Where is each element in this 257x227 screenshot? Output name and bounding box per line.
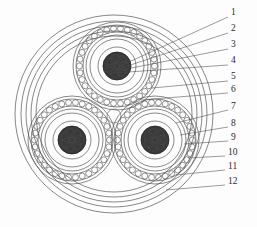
screen-wire bbox=[82, 83, 88, 89]
screen-wire bbox=[59, 101, 65, 107]
screen-wire bbox=[92, 107, 98, 113]
callout-number-2: 2 bbox=[231, 24, 236, 34]
leader-line-11 bbox=[176, 170, 225, 175]
screen-wire bbox=[189, 144, 195, 150]
screen-wire bbox=[91, 93, 97, 99]
screen-wire bbox=[155, 174, 161, 180]
screen-wire bbox=[104, 27, 110, 33]
screen-wire bbox=[162, 101, 168, 107]
screen-wire bbox=[149, 174, 155, 180]
screen-wire bbox=[142, 101, 148, 107]
screen-wire bbox=[149, 100, 155, 106]
screen-wire bbox=[34, 151, 40, 157]
callout-number-8: 8 bbox=[231, 119, 236, 129]
callout-number-12: 12 bbox=[228, 177, 238, 187]
callout-number-6: 6 bbox=[231, 85, 236, 95]
screen-wire bbox=[149, 77, 155, 83]
screen-wire bbox=[46, 107, 52, 113]
callout-number-9: 9 bbox=[231, 133, 236, 143]
screen-wire bbox=[79, 49, 85, 55]
screen-wire bbox=[86, 88, 92, 94]
callout-number-7: 7 bbox=[231, 102, 236, 112]
screen-wire bbox=[92, 167, 98, 173]
screen-wire bbox=[142, 38, 148, 44]
screen-wire bbox=[135, 171, 141, 177]
screen-wire bbox=[72, 100, 78, 106]
screen-wire bbox=[79, 77, 85, 83]
screen-wire bbox=[66, 100, 72, 106]
screen-wire bbox=[131, 29, 137, 35]
cable-cross-section-figure: 123456789101112 bbox=[0, 0, 257, 227]
screen-wire bbox=[146, 83, 152, 89]
screen-wire bbox=[169, 103, 175, 109]
screen-wire bbox=[117, 151, 123, 157]
callout-number-3: 3 bbox=[231, 40, 236, 50]
screen-wire bbox=[115, 130, 121, 136]
screen-wire bbox=[104, 123, 110, 129]
cable-cores bbox=[28, 22, 199, 184]
screen-wire bbox=[101, 157, 107, 163]
cable-drawing bbox=[0, 0, 257, 227]
screen-wire bbox=[124, 112, 130, 118]
outer-sheath-rings bbox=[15, 15, 213, 213]
screen-wire bbox=[82, 43, 88, 49]
screen-wire bbox=[124, 162, 130, 168]
leader-line-10 bbox=[188, 156, 225, 158]
screen-wire bbox=[180, 112, 186, 118]
screen-wire bbox=[77, 70, 83, 76]
screen-wire bbox=[104, 99, 110, 105]
screen-wire bbox=[37, 117, 43, 123]
screen-wire bbox=[175, 107, 181, 113]
screen-wire bbox=[129, 107, 135, 113]
screen-wire bbox=[86, 171, 92, 177]
screen-wire bbox=[77, 56, 83, 62]
screen-wire bbox=[79, 173, 85, 179]
screen-wire bbox=[117, 100, 123, 106]
screen-wire bbox=[46, 167, 52, 173]
screen-wire bbox=[151, 70, 157, 76]
screen-wire bbox=[180, 162, 186, 168]
screen-wire bbox=[111, 100, 117, 106]
callout-number-4: 4 bbox=[231, 56, 236, 66]
screen-wire bbox=[142, 88, 148, 94]
screen-wire bbox=[52, 171, 58, 177]
screen-wire bbox=[187, 123, 193, 129]
screen-wire bbox=[79, 101, 85, 107]
screen-wire bbox=[52, 103, 58, 109]
screen-wire bbox=[41, 112, 47, 118]
callout-number-5: 5 bbox=[231, 72, 236, 82]
screen-wire bbox=[129, 167, 135, 173]
screen-wire bbox=[142, 173, 148, 179]
screen-wire bbox=[117, 123, 123, 129]
screen-wire bbox=[97, 112, 103, 118]
outer-sheath-outer-edge bbox=[15, 15, 213, 213]
screen-wire bbox=[86, 103, 92, 109]
callout-number-1: 1 bbox=[231, 8, 236, 18]
screen-wire bbox=[32, 144, 38, 150]
screen-wire bbox=[155, 100, 161, 106]
callout-number-11: 11 bbox=[228, 162, 237, 172]
leader-line-12 bbox=[166, 185, 225, 190]
screen-wire bbox=[101, 117, 107, 123]
screen-wire bbox=[187, 151, 193, 157]
screen-wire bbox=[97, 162, 103, 168]
leader-line-5 bbox=[152, 81, 228, 88]
screen-wire bbox=[97, 97, 103, 103]
leader-line-6 bbox=[141, 93, 228, 100]
callout-number-10: 10 bbox=[228, 148, 238, 158]
screen-wire bbox=[120, 157, 126, 163]
screen-wire bbox=[162, 173, 168, 179]
screen-wire bbox=[72, 174, 78, 180]
screen-wire bbox=[115, 144, 121, 150]
screen-wire bbox=[107, 137, 113, 143]
core-bottom-left bbox=[28, 96, 116, 184]
screen-wire bbox=[77, 63, 83, 69]
screen-wire bbox=[104, 151, 110, 157]
screen-wire bbox=[115, 137, 121, 143]
